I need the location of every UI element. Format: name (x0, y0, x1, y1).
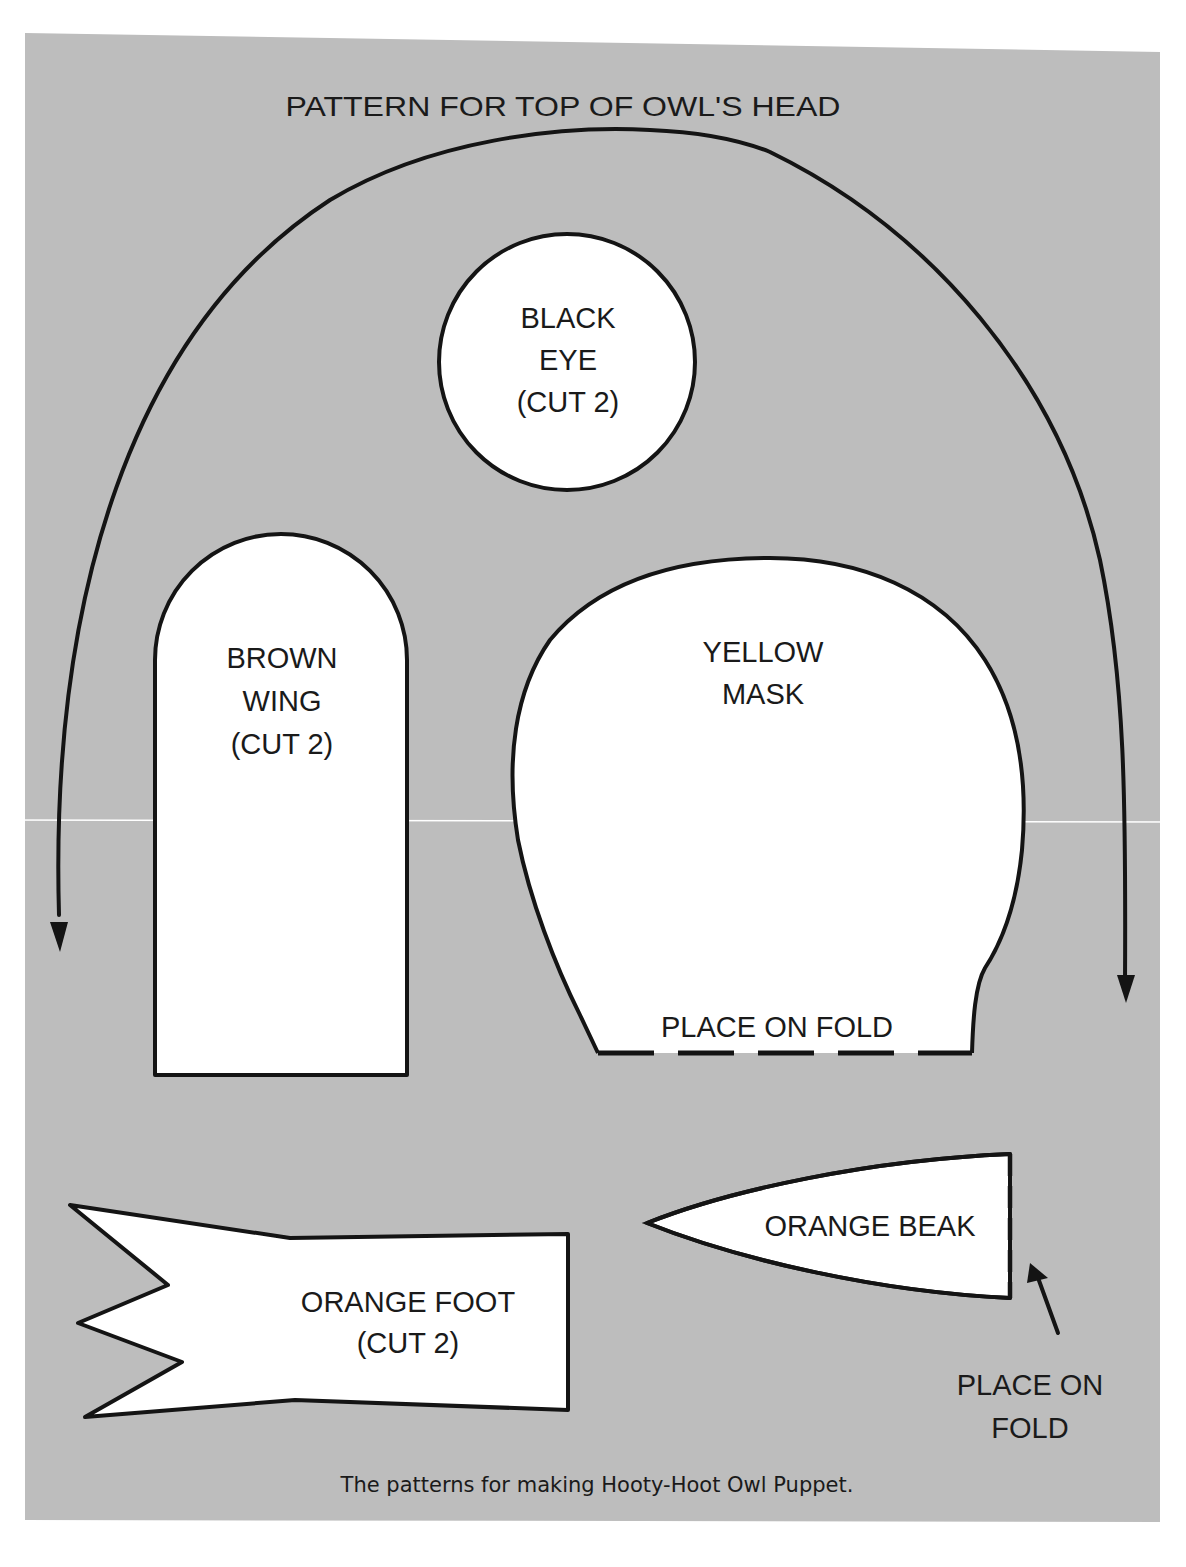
eye-piece: BLACK EYE (CUT 2) (439, 234, 695, 490)
eye-label-2: EYE (539, 344, 597, 376)
mask-piece: YELLOW MASK PLACE ON FOLD (513, 558, 1024, 1053)
beak-fold-label-2: FOLD (991, 1412, 1068, 1444)
beak-label: ORANGE BEAK (764, 1210, 976, 1242)
foot-piece: ORANGE FOOT (CUT 2) (70, 1205, 568, 1417)
pattern-sheet: PATTERN FOR TOP OF OWL'S HEAD BLACK EYE … (0, 0, 1186, 1567)
mask-label-1: YELLOW (703, 636, 824, 668)
wing-label-3: (CUT 2) (231, 728, 334, 760)
wing-label-2: WING (243, 685, 322, 717)
head-pattern-title: PATTERN FOR TOP OF OWL'S HEAD (286, 91, 841, 122)
beak-fold-label-1: PLACE ON (957, 1369, 1104, 1401)
eye-label-3: (CUT 2) (517, 386, 620, 418)
eye-label-1: BLACK (520, 302, 616, 334)
mask-fold-label: PLACE ON FOLD (661, 1011, 893, 1043)
foot-label-1: ORANGE FOOT (301, 1286, 516, 1318)
mask-label-2: MASK (722, 678, 805, 710)
wing-piece: BROWN WING (CUT 2) (155, 534, 407, 1075)
figure-caption: The patterns for making Hooty-Hoot Owl P… (340, 1473, 854, 1497)
wing-label-1: BROWN (226, 642, 337, 674)
foot-label-2: (CUT 2) (357, 1327, 460, 1359)
